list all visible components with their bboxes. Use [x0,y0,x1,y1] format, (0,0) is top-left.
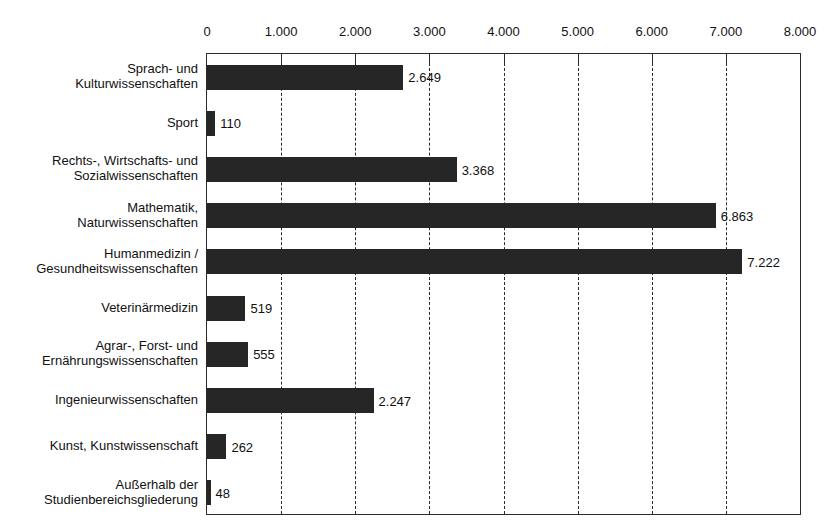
x-tick-mark [800,54,801,63]
bar-row: 519 [207,296,800,321]
y-category-label: Kunst, Kunstwissenschaft [0,423,198,469]
x-axis-tick-labels: 01.0002.0003.0004.0005.0006.0007.0008.00… [206,24,801,46]
y-category-label: Sport [0,99,198,145]
bar-value-label: 555 [248,347,275,362]
y-category-label-line: Ernährungswissenschaften [42,353,198,368]
bar-row: 262 [207,434,800,459]
y-category-label: Außerhalb derStudienbereichsgliederung [0,469,198,515]
bar-value-label: 6.863 [716,208,754,223]
y-category-label: Sprach- undKulturwissenschaften [0,53,198,99]
x-tick-label: 0 [203,24,210,40]
y-category-label-line: Sport [167,115,198,130]
bar-value-label: 48 [211,485,230,500]
bar-row: 7.222 [207,249,800,274]
bar-value-label: 262 [226,439,253,454]
x-tick-label: 6.000 [635,24,668,40]
bar [207,203,716,228]
bar [207,342,248,367]
bar [207,111,215,136]
bar-value-label: 110 [215,116,241,131]
bar-row: 555 [207,342,800,367]
bar-value-label: 2.649 [403,70,441,85]
x-tick-label: 5.000 [561,24,594,40]
y-category-label-line: Ingenieurwissenschaften [55,392,198,407]
y-category-label-line: Sprach- und [127,61,198,76]
bar [207,65,403,90]
bar-row: 110 [207,111,800,136]
y-category-label-line: Rechts-, Wirtschafts- und [52,153,198,168]
y-category-label-line: Naturwissenschaften [77,215,198,230]
y-category-label: Humanmedizin /Gesundheitswissenschaften [0,238,198,284]
bars-layer: 2.6491103.3686.8637.2225195552.24726248 [207,54,800,514]
x-tick-label: 7.000 [710,24,743,40]
y-category-label-line: Studienbereichsgliederung [44,492,198,507]
bar-row: 2.247 [207,388,800,413]
bar-row: 3.368 [207,157,800,182]
y-category-label-line: Kulturwissenschaften [75,76,198,91]
y-axis-category-labels: Sprach- undKulturwissenschaftenSportRech… [0,53,198,515]
bar-value-label: 2.247 [374,393,412,408]
y-category-label-line: Veterinärmedizin [101,300,198,315]
y-category-label-line: Agrar-, Forst- und [95,338,198,353]
y-category-label-line: Kunst, Kunstwissenschaft [50,438,198,453]
bar [207,388,374,413]
x-tick-label: 1.000 [265,24,298,40]
bar-value-label: 3.368 [457,162,495,177]
y-category-label: Mathematik,Naturwissenschaften [0,192,198,238]
x-tick-label: 3.000 [413,24,446,40]
y-category-label-line: Humanmedizin / [104,246,198,261]
y-category-label-line: Sozialwissenschaften [74,168,198,183]
x-tick-label: 8.000 [784,24,817,40]
bar [207,434,226,459]
bar-value-label: 519 [245,301,272,316]
y-category-label-line: Gesundheitswissenschaften [36,261,198,276]
y-category-label-line: Mathematik, [127,200,198,215]
y-category-label: Agrar-, Forst- undErnährungswissenschaft… [0,330,198,376]
x-tick-label: 4.000 [487,24,520,40]
y-category-label-line: Außerhalb der [116,477,198,492]
plot-area: 2.6491103.3686.8637.2225195552.24726248 [206,53,801,515]
bar [207,157,457,182]
y-category-label: Ingenieurwissenschaften [0,376,198,422]
bar-value-label: 7.222 [742,254,780,269]
y-category-label: Veterinärmedizin [0,284,198,330]
bar [207,249,742,274]
bar-chart: 01.0002.0003.0004.0005.0006.0007.0008.00… [0,0,829,531]
x-tick-label: 2.000 [339,24,372,40]
bar-row: 6.863 [207,203,800,228]
bar-row: 48 [207,480,800,505]
bar-row: 2.649 [207,65,800,90]
bar [207,296,245,321]
y-category-label: Rechts-, Wirtschafts- undSozialwissensch… [0,145,198,191]
